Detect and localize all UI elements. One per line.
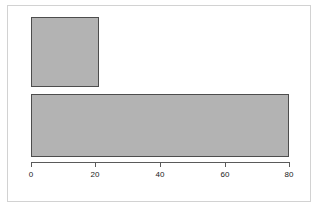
x-tick-mark-0 (31, 162, 32, 167)
x-tick-mark-40 (160, 162, 161, 167)
x-tick-label-40: 40 (145, 170, 175, 180)
bar-2 (31, 94, 289, 157)
x-tick-label-20: 20 (80, 170, 110, 180)
bar-1 (31, 17, 99, 87)
plot-area: 020406080 (0, 0, 319, 208)
x-tick-mark-60 (225, 162, 226, 167)
bar-chart: 020406080 (0, 0, 319, 208)
x-tick-mark-20 (95, 162, 96, 167)
x-tick-label-60: 60 (210, 170, 240, 180)
x-tick-label-80: 80 (274, 170, 304, 180)
x-tick-label-0: 0 (16, 170, 46, 180)
x-tick-mark-80 (289, 162, 290, 167)
